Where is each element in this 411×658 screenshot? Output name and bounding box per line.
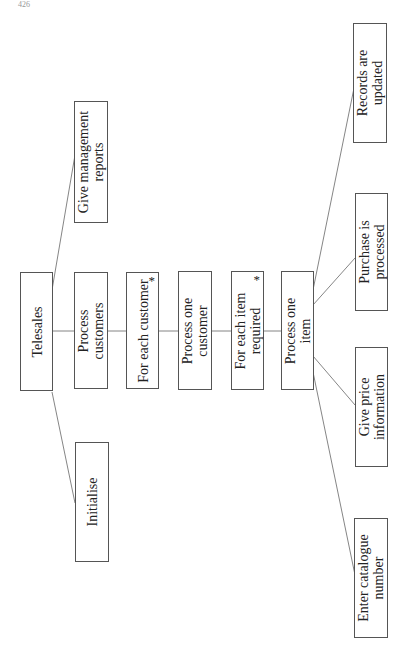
node-enter-catalogue-number: Enter catalogue number — [354, 518, 388, 638]
node-label: Purchase is processed — [357, 220, 387, 283]
node-text-line1: Records are — [355, 50, 370, 116]
node-text-line2: reports — [91, 111, 106, 213]
node-text: For each customer — [135, 279, 150, 382]
node-text-line2: customer — [195, 297, 210, 364]
node-text: Telesales — [29, 306, 44, 357]
node-label: Records are updated — [355, 50, 385, 116]
node-give-price-information: Give price information — [355, 347, 388, 467]
node-text-line2: number — [371, 534, 386, 621]
node-purchase-is-processed: Purchase is processed — [355, 193, 388, 311]
node-text-line1: Process — [76, 302, 91, 359]
node-give-management-reports: Give management reports — [74, 101, 108, 223]
node-text-line2: item — [298, 297, 313, 364]
node-records-are-updated: Records are updated — [353, 23, 387, 143]
node-text-line1: Give management — [76, 111, 91, 213]
link-process-one-item-records-are-updated — [313, 88, 354, 290]
link-telesales-give-management-reports — [52, 155, 75, 290]
node-label: Give price information — [357, 374, 387, 440]
node-telesales: Telesales — [20, 272, 53, 391]
node-process-customers: Process customers — [74, 272, 108, 389]
node-initialise: Initialise — [75, 442, 109, 562]
node-label: Process customers — [76, 302, 106, 359]
node-text: Initialise — [85, 478, 100, 527]
node-text-line2: customers — [91, 302, 106, 359]
node-label: For each item required — [233, 292, 263, 369]
node-for-each-customer: * For each customer — [126, 272, 159, 389]
node-text-line1: For each item — [233, 292, 248, 369]
node-text-line1: Enter catalogue — [356, 534, 371, 621]
link-process-one-item-give-price-information — [313, 356, 355, 405]
link-process-one-item-enter-catalogue-number — [313, 372, 355, 575]
node-label: Enter catalogue number — [356, 534, 386, 621]
node-label: Give management reports — [76, 111, 106, 213]
node-text-line1: Process one — [180, 297, 195, 364]
node-process-one-item: Process one item — [281, 271, 314, 390]
node-label: Process one customer — [180, 297, 210, 364]
node-text-line2: updated — [370, 50, 385, 116]
node-text-line2: processed — [372, 220, 387, 283]
node-label: For each customer — [135, 279, 150, 382]
node-label: Telesales — [29, 306, 44, 357]
link-telesales-initialise — [52, 392, 75, 503]
node-text-line2: required — [248, 292, 263, 369]
node-text-line1: Give price — [357, 374, 372, 440]
node-text-line1: Process one — [283, 297, 298, 364]
node-process-one-customer: Process one customer — [178, 271, 212, 390]
link-process-one-item-purchase-is-processed — [313, 258, 355, 305]
node-text-line1: Purchase is — [357, 220, 372, 283]
node-label: Process one item — [283, 297, 313, 364]
iteration-marker: * — [254, 274, 261, 286]
node-label: Initialise — [85, 478, 100, 527]
node-for-each-item-required: * For each item required — [231, 271, 264, 390]
node-text-line2: information — [372, 374, 387, 440]
